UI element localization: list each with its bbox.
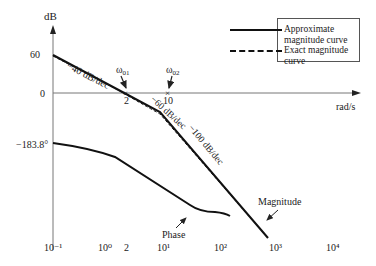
x-tick-1e-1: 10⁻¹ [44,242,62,253]
x-axis-label: rad/s [336,101,356,112]
x-axis [53,90,361,96]
phase-label: Phase [162,229,186,240]
phase-start-label: −183.8° [16,139,48,150]
slope-label-minus100: −100 dB/dec [186,123,225,167]
magnitude-label: Magnitude [258,196,302,207]
magnitude-arrow-icon [267,210,278,220]
y-tick-0: 0 [40,88,45,99]
y-tick-60: 60 [30,49,40,60]
legend: Approximate magnitude curve Exact magnit… [277,18,360,62]
y-axis-label: dB [44,10,57,22]
corner1-value: 2 [124,95,129,106]
phase-curve [53,143,230,216]
exact-magnitude-curve [53,56,268,238]
corner2-label: ω02 [166,64,180,77]
corner2-value: 10 [163,95,173,106]
dashed-line-swatch-icon [230,50,282,52]
corner1-label: ω01 [116,64,130,77]
phase-arrow-icon [176,218,186,228]
corner2-arrow-icon [169,76,172,88]
legend-label-approximate: Approximate magnitude curve [284,24,362,45]
approx-magnitude-curve [53,55,268,238]
x-tick-1e3: 10³ [269,242,282,253]
x-tick-1e1: 10¹ [157,242,170,253]
x-axis-arrow-icon [352,90,361,96]
x-tick-1e0: 10⁰ [98,242,112,253]
x-tick-2: 2 [124,242,129,253]
corner1-arrow-icon [121,76,126,88]
legend-label-exact: Exact magnitude curve [284,45,362,66]
y-axis [50,25,56,250]
x-tick-1e2: 10² [214,242,227,253]
solid-line-swatch-icon [230,29,282,31]
slope-label-minus40: −40 dB/dec [65,60,112,91]
y-axis-arrow-icon [50,25,56,34]
x-tick-1e4: 10⁴ [326,242,340,253]
